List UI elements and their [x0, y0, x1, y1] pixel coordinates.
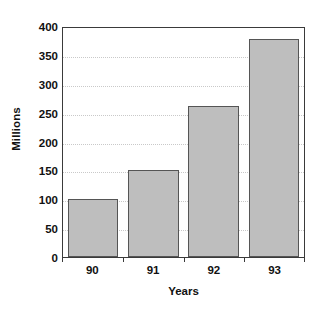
x-axis-tick: [244, 258, 245, 262]
x-axis-tick: [123, 258, 124, 262]
plot-area: [62, 27, 305, 258]
bar-series: [63, 28, 304, 257]
bar-93[interactable]: [249, 39, 300, 257]
y-axis-tick-label: 300: [39, 79, 58, 91]
bar-band: [244, 28, 304, 257]
x-axis-tick-label: 92: [184, 264, 245, 280]
x-axis-tick-label: 91: [123, 264, 184, 280]
x-axis-tick-labels: 90919293: [62, 264, 305, 280]
x-axis-tick: [304, 258, 305, 262]
x-axis-tick: [184, 258, 185, 262]
bar-band: [123, 28, 183, 257]
y-axis-title-text: Millions: [10, 107, 22, 151]
x-axis-tick-label: 93: [244, 264, 305, 280]
x-axis-tick-label: 90: [62, 264, 123, 280]
x-axis-ticks: [62, 258, 305, 262]
y-axis-tick-label: 100: [39, 194, 58, 206]
y-axis-tick-label: 350: [39, 50, 58, 62]
bar-91[interactable]: [128, 170, 179, 257]
y-axis-tick-labels: 050100150200250300350400: [22, 27, 58, 258]
bar-band: [184, 28, 244, 257]
bar-chart: Millions 050100150200250300350400 909192…: [0, 0, 327, 311]
bar-band: [63, 28, 123, 257]
x-axis-title: Years: [62, 285, 305, 297]
bar-90[interactable]: [68, 199, 119, 257]
x-axis-tick: [62, 258, 63, 262]
y-axis-tick-label: 250: [39, 108, 58, 120]
y-axis-tick-label: 50: [45, 223, 58, 235]
y-axis-tick-label: 200: [39, 137, 58, 149]
y-axis-tick-label: 400: [39, 21, 58, 33]
bar-92[interactable]: [188, 106, 239, 257]
y-axis-tick-label: 150: [39, 165, 58, 177]
y-axis-tick-label: 0: [52, 252, 58, 264]
